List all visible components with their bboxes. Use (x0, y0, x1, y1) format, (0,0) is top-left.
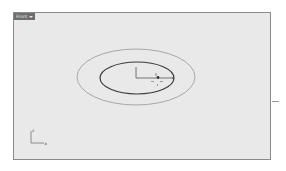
axis-z-label: z (32, 128, 34, 133)
center-point-icon[interactable] (157, 76, 160, 79)
axis-indicator: z x (31, 128, 48, 146)
axis-x-label: x (45, 141, 48, 146)
viewport-scene: z x (0, 0, 286, 171)
viewport-edge-tick (272, 101, 279, 102)
